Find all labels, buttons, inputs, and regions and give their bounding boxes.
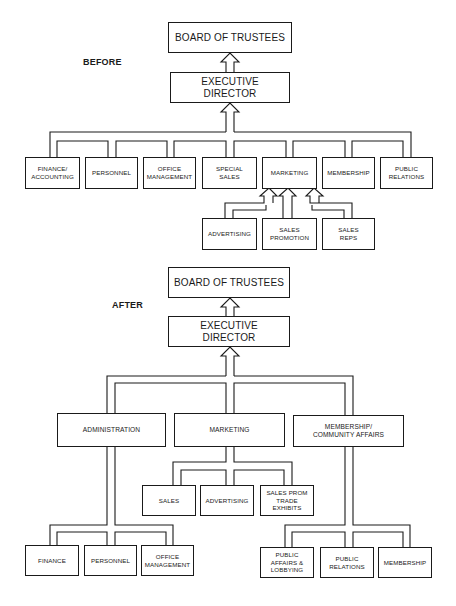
after-division-membership-community-affairs: MEMBERSHIP/ COMMUNITY AFFAIRS [293, 415, 404, 447]
before-label: BEFORE [83, 57, 122, 67]
after-label: AFTER [112, 300, 143, 310]
before-dept-finance-accounting: FINANCE/ ACCOUNTING [25, 157, 80, 189]
before-dept-special-sales: SPECIAL SALES [202, 157, 257, 189]
before-marketing-sales-promotion: SALES PROMOTION [262, 218, 317, 250]
after-admin-finance: FINANCE [25, 545, 79, 576]
before-dept-membership: MEMBERSHIP [322, 157, 375, 189]
after-executive-director: EXECUTIVE DIRECTOR [168, 316, 290, 347]
before-dept-personnel: PERSONNEL [85, 157, 138, 189]
before-executive-director: EXECUTIVE DIRECTOR [170, 72, 290, 103]
after-membership-public-relations: PUBLIC RELATIONS [320, 547, 374, 578]
after-marketing-advertising: ADVERTISING [200, 485, 254, 516]
before-board-of-trustees: BOARD OF TRUSTEES [168, 22, 292, 53]
after-board-of-trustees: BOARD OF TRUSTEES [168, 267, 290, 298]
after-marketing-sales: SALES [142, 485, 196, 516]
before-marketing-advertising: ADVERTISING [202, 218, 257, 250]
before-dept-office-management: OFFICE MANAGEMENT [143, 157, 196, 189]
before-marketing-sales-reps: SALES REPS [322, 218, 375, 250]
after-admin-personnel: PERSONNEL [84, 545, 137, 576]
after-division-marketing: MARKETING [174, 413, 285, 447]
after-division-administration: ADMINISTRATION [57, 413, 166, 447]
before-dept-public-relations: PUBLIC RELATIONS [380, 157, 433, 189]
after-membership-public-affairs-lobbying: PUBLIC AFFAIRS & LOBBYING [260, 547, 314, 578]
after-admin-office-management: OFFICE MANAGEMENT [141, 545, 194, 576]
after-membership-membership: MEMBERSHIP [378, 547, 432, 578]
after-marketing-sales-prom-trade-exhibits: SALES PROM TRADE EXHIBITS [260, 485, 314, 516]
before-dept-marketing: MARKETING [262, 157, 317, 189]
